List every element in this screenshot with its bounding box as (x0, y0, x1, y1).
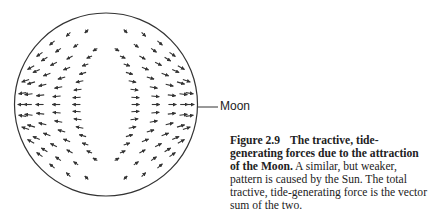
force-arrow (73, 97, 81, 98)
force-arrow (162, 133, 169, 136)
force-arrow (168, 113, 176, 114)
force-arrow (124, 143, 130, 145)
force-arrow (50, 164, 55, 168)
force-arrow (183, 80, 190, 83)
force-arrow (150, 87, 158, 88)
force-arrow (39, 123, 47, 125)
force-arrow (178, 140, 185, 144)
force-arrow (124, 64, 130, 66)
force-arrow (147, 130, 154, 132)
force-arrow (74, 119, 82, 120)
force-arrow (67, 150, 73, 153)
force-arrow (165, 57, 171, 61)
force-arrow (165, 148, 171, 152)
force-arrow (56, 157, 61, 161)
force-arrow (58, 130, 65, 132)
force-arrow (178, 66, 185, 70)
force-arrow (139, 150, 145, 153)
moon-label: Moon (220, 99, 250, 113)
force-arrow (186, 93, 194, 94)
force-arrow (28, 140, 35, 144)
force-arrow (85, 30, 89, 34)
force-arrow (66, 32, 70, 36)
force-arrow (55, 87, 63, 88)
force-arrow (126, 72, 133, 74)
force-arrow (151, 157, 156, 161)
force-arrow (172, 70, 179, 73)
force-arrow (79, 72, 86, 74)
force-arrow (33, 136, 40, 139)
force-arrow (82, 64, 88, 66)
force-arrow (36, 95, 44, 96)
force-arrow (76, 127, 83, 129)
force-arrow (87, 56, 92, 58)
force-arrow (41, 57, 47, 61)
force-arrow (115, 158, 119, 160)
force-arrow (124, 176, 128, 180)
force-arrow (79, 135, 86, 137)
force-arrow (74, 89, 82, 90)
force-arrow (93, 158, 97, 160)
force-arrow (126, 135, 133, 137)
force-arrow (82, 143, 88, 145)
force-arrow (53, 96, 61, 97)
force-arrow (166, 123, 174, 125)
force-arrow (93, 49, 97, 51)
force-arrow (151, 96, 159, 97)
force-arrow (131, 89, 139, 90)
force-arrow (19, 93, 27, 94)
force-arrow (53, 112, 61, 113)
force-arrow (43, 73, 50, 76)
force-arrow (170, 153, 176, 157)
force-arrow (120, 56, 125, 58)
force-arrow (50, 62, 57, 65)
force-arrow (155, 62, 162, 65)
force-arrow (151, 112, 159, 113)
force-arrow (134, 44, 139, 47)
force-arrow (39, 84, 47, 86)
force-arrows (18, 30, 195, 180)
force-arrow (147, 77, 154, 79)
force-arrow (74, 44, 79, 47)
force-arrow (43, 133, 50, 136)
force-arrow (41, 148, 47, 152)
force-arrow (142, 173, 146, 177)
force-arrow (168, 95, 176, 96)
force-arrow (36, 113, 44, 114)
force-arrow (124, 30, 128, 34)
force-arrow (25, 114, 33, 115)
force-arrow (166, 84, 174, 86)
force-arrow (25, 94, 33, 95)
force-arrow (58, 77, 65, 79)
force-arrow (129, 127, 136, 129)
force-arrow (56, 48, 61, 52)
force-arrow (172, 136, 179, 139)
force-arrow (177, 82, 185, 84)
force-arrow (142, 67, 149, 70)
force-arrow (131, 111, 139, 112)
force-arrow (157, 164, 162, 168)
force-arrow (186, 115, 194, 116)
force-arrow (177, 125, 185, 127)
force-arrow (150, 121, 158, 122)
force-arrow (63, 67, 70, 70)
force-arrow (76, 81, 83, 83)
force-arrow (139, 56, 145, 59)
force-arrow (157, 41, 162, 45)
force-arrow (85, 176, 89, 180)
force-arrow (170, 52, 176, 56)
force-arrow (151, 48, 156, 52)
force-arrow (22, 80, 29, 83)
force-arrow (55, 121, 63, 122)
force-arrow (73, 111, 81, 112)
figure-number: Figure 2.9 (230, 134, 280, 147)
force-arrow (19, 115, 27, 116)
force-arrow (67, 56, 73, 59)
force-arrow (131, 119, 139, 120)
force-arrow (66, 173, 70, 177)
force-arrow (131, 97, 139, 98)
force-arrow (180, 114, 188, 115)
force-arrow (142, 139, 149, 142)
force-arrow (27, 82, 35, 84)
force-arrow (162, 73, 169, 76)
